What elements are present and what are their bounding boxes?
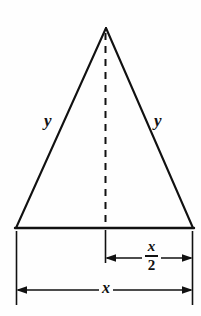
label-base-x: x [99,280,113,296]
label-half-base-fraction: x 2 [142,239,161,274]
half-base-numerator: x [147,239,157,254]
half-base-denominator: 2 [147,258,157,273]
triangle-diagram-svg [0,0,201,316]
label-right-side-y: y [154,112,162,129]
label-left-side-y: y [44,112,52,129]
geometry-figure: y y x 2 x [0,0,201,316]
figure-background [0,0,201,316]
